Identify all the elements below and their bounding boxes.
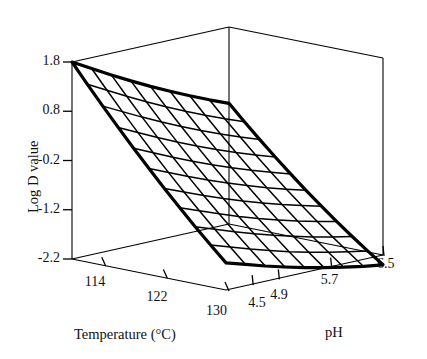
y-tick-label-49: 4.9 bbox=[270, 288, 288, 302]
x-tick-label-130: 130 bbox=[206, 304, 227, 318]
y-tick-label-45: 4.5 bbox=[248, 296, 266, 310]
z-tick-label-5: -2.2 bbox=[38, 251, 60, 265]
z-tick-label-4: -1.2 bbox=[38, 202, 60, 216]
x-tick-label-114: 114 bbox=[85, 275, 105, 289]
z-tick-label-1: 1.8 bbox=[43, 54, 61, 68]
y-tick-label-57: 5.7 bbox=[321, 273, 339, 287]
y-tick-label-65: 6.5 bbox=[377, 257, 395, 271]
z-tick-label-3: -0.2 bbox=[38, 153, 60, 167]
surface-mesh bbox=[72, 62, 383, 268]
y-axis-title: pH bbox=[325, 325, 343, 340]
x-axis-title: Temperature (°C) bbox=[74, 327, 176, 342]
x-tick-label-122: 122 bbox=[146, 290, 167, 304]
surface-plot-figure: 1.8 0.8 -0.2 -1.2 -2.2 114 122 130 4.5 4… bbox=[0, 0, 427, 359]
z-tick-label-2: 0.8 bbox=[43, 103, 61, 117]
z-axis-title: Log D value bbox=[26, 141, 41, 213]
